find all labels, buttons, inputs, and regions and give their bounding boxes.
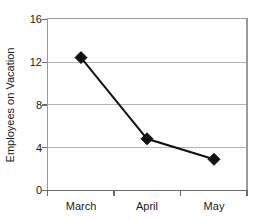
y-tick-label-12: 12 [30,56,42,68]
y-tick-label-8: 8 [36,99,42,111]
x-category-label-may: May [204,200,225,212]
y-tick-label-16: 16 [30,13,42,25]
line-chart: Employees on Vacation 16 12 8 4 0 March … [0,0,258,221]
chart-canvas: Employees on Vacation 16 12 8 4 0 March … [0,0,258,221]
x-category-label-april: April [136,200,158,212]
y-tick-label-0: 0 [36,184,42,196]
x-category-label-march: March [66,200,97,212]
y-tick-label-4: 4 [36,142,42,154]
data-point-may[interactable] [208,153,220,165]
y-axis-title: Employees on Vacation [4,48,16,163]
